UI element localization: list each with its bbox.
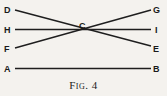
point-label-C: C (79, 21, 86, 31)
point-label-I: I (155, 25, 158, 35)
point-label-E: E (153, 44, 159, 54)
point-label-A: A (4, 64, 11, 74)
point-label-D: D (4, 5, 11, 15)
point-label-H: H (4, 25, 11, 35)
point-label-G: G (153, 5, 160, 15)
point-label-B: B (153, 64, 160, 74)
figure-caption: Fig. 4 (0, 79, 167, 91)
point-label-F: F (4, 44, 10, 54)
